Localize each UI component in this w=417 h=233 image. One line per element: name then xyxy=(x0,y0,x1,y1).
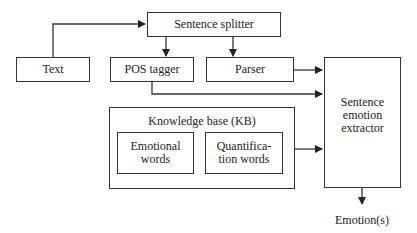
extractor-label-3: extractor xyxy=(341,122,384,135)
edge-text-to-splitter xyxy=(53,24,145,57)
sentence-splitter-label: Sentence splitter xyxy=(174,18,254,31)
text-label: Text xyxy=(42,63,63,76)
emotional-words-box: Emotional words xyxy=(117,132,194,174)
parser-label: Parser xyxy=(235,63,265,76)
pos-tagger-label: POS tagger xyxy=(125,63,180,76)
sentence-splitter-box: Sentence splitter xyxy=(147,12,281,37)
emotional-words-label-2: words xyxy=(141,153,170,166)
parser-box: Parser xyxy=(206,57,294,82)
quantification-words-box: Quantifica- tion words xyxy=(205,132,283,174)
pos-tagger-box: POS tagger xyxy=(110,57,194,82)
emotions-output-label: Emotion(s) xyxy=(322,213,402,228)
quantification-words-label-2: tion words xyxy=(219,153,270,166)
edge-pos-to-extractor xyxy=(152,82,322,94)
text-box: Text xyxy=(16,57,90,82)
sentence-emotion-extractor-box: Sentence emotion extractor xyxy=(324,57,401,188)
knowledge-base-label: Knowledge base (KB) xyxy=(148,115,255,128)
